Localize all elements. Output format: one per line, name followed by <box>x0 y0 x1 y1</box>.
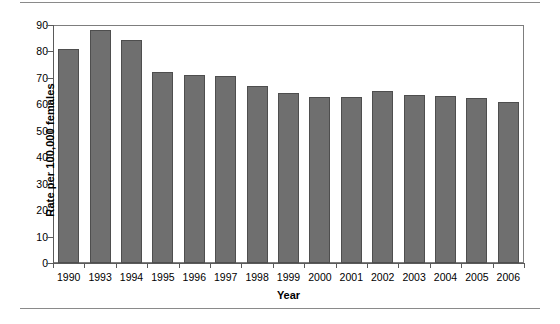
bar-slot <box>372 25 393 263</box>
bar-slot <box>404 25 425 263</box>
bar-chart-figure: 0102030405060708090 Rate per 100,000 fem… <box>0 0 560 324</box>
bar-slot <box>435 25 456 263</box>
y-axis-tick-label: 70 <box>6 73 48 84</box>
bar[interactable] <box>215 76 236 263</box>
x-axis-tick <box>210 263 211 268</box>
x-axis-tick <box>336 263 337 268</box>
bar[interactable] <box>466 98 487 263</box>
x-axis-title: Year <box>53 289 524 301</box>
y-axis-tick <box>46 25 53 26</box>
bar[interactable] <box>152 72 173 263</box>
y-axis-tick-label: 30 <box>6 179 48 190</box>
bar-slot <box>184 25 205 263</box>
bars-container <box>53 25 524 263</box>
x-axis-tick <box>241 263 242 268</box>
bar-slot <box>58 25 79 263</box>
y-axis-tick-label: 60 <box>6 99 48 110</box>
y-axis-tick-label: 20 <box>6 205 48 216</box>
x-axis-tick <box>367 263 368 268</box>
bar[interactable] <box>341 97 362 263</box>
bar[interactable] <box>435 96 456 263</box>
bar[interactable] <box>498 102 519 263</box>
bar[interactable] <box>404 95 425 263</box>
x-axis-tick <box>273 263 274 268</box>
bar-slot <box>341 25 362 263</box>
bar-slot <box>152 25 173 263</box>
bar-slot <box>247 25 268 263</box>
bar-slot <box>466 25 487 263</box>
x-axis-tick <box>53 263 54 268</box>
x-axis-tick-label: 2006 <box>486 272 530 283</box>
bar[interactable] <box>90 30 111 263</box>
bar-slot <box>278 25 299 263</box>
y-axis-tick-label: 80 <box>6 46 48 57</box>
y-axis-tick-label: 0 <box>6 258 48 269</box>
bar[interactable] <box>121 40 142 263</box>
y-axis-tick-label: 90 <box>6 20 48 31</box>
x-axis-tick <box>524 263 525 268</box>
y-axis-tick-label: 10 <box>6 232 48 243</box>
x-axis-tick <box>493 263 494 268</box>
x-axis-tick <box>84 263 85 268</box>
x-axis-tick <box>461 263 462 268</box>
y-axis-tick-labels: 0102030405060708090 <box>0 0 48 324</box>
bar-slot <box>90 25 111 263</box>
bar-slot <box>309 25 330 263</box>
x-axis-tick <box>398 263 399 268</box>
x-axis-tick <box>430 263 431 268</box>
bar[interactable] <box>278 93 299 263</box>
y-axis-tick-label: 50 <box>6 126 48 137</box>
x-axis-line <box>53 263 525 264</box>
bar-slot <box>215 25 236 263</box>
x-axis-tick <box>116 263 117 268</box>
bar[interactable] <box>247 86 268 263</box>
y-axis-tick-label: 40 <box>6 152 48 163</box>
x-axis-tick <box>179 263 180 268</box>
bar[interactable] <box>372 91 393 263</box>
x-axis-tick <box>304 263 305 268</box>
x-axis-tick <box>147 263 148 268</box>
bar[interactable] <box>184 75 205 263</box>
bar-slot <box>121 25 142 263</box>
bar-slot <box>498 25 519 263</box>
bar[interactable] <box>309 97 330 263</box>
bar[interactable] <box>58 49 79 263</box>
